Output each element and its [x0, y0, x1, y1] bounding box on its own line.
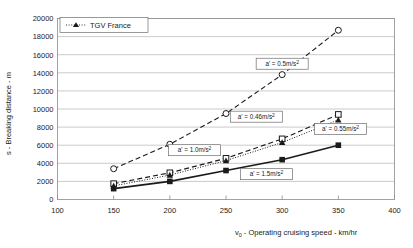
data-point [279, 72, 285, 78]
data-point [223, 168, 229, 174]
annotation-ann-05: a' = 0.5m/s2 [256, 58, 308, 69]
y-axis-title-text: s - Breaking distance - m [4, 72, 13, 155]
y-tick-label: 12000 [33, 87, 54, 96]
y-tick-label: 10000 [33, 105, 54, 114]
x-tick-label: 100 [51, 206, 64, 215]
annotation-label: a' = 0.46m/s2 [238, 112, 275, 120]
legend-item-label: TGV France [90, 21, 131, 30]
y-tick-label: 2000 [37, 177, 54, 186]
annotation-base: a' = 0.46m/s [238, 113, 272, 120]
y-tick-label: 8000 [37, 123, 54, 132]
data-point [111, 186, 117, 192]
x-axis-title: v0 - Operating cruising speed - km/hr [235, 228, 358, 238]
x-tick-label: 200 [164, 206, 177, 215]
breaking-distance-chart: 0200040006000800010000120001400016000180… [0, 0, 413, 248]
data-point [279, 157, 285, 163]
annotation-exponent: 2 [356, 124, 359, 130]
data-point [336, 112, 342, 118]
legend-box: TGV France [60, 18, 148, 33]
annotation-base: a' = 0.55m/s [322, 125, 356, 132]
annotation-exponent: 2 [280, 169, 283, 175]
annotation-ann-15: a' = 1.5m/s2 [240, 169, 292, 180]
annotation-exponent: 2 [209, 145, 212, 151]
y-tick-label: 0 [49, 195, 53, 204]
data-point [167, 179, 173, 185]
data-point [223, 111, 229, 117]
x-tick-label: 350 [332, 206, 345, 215]
annotation-label: a' = 0.5m/s2 [265, 59, 299, 67]
annotation-ann-055: a' = 0.55m/s2 [315, 123, 367, 134]
annotation-base: a' = 0.5m/s [265, 60, 296, 67]
annotation-exponent: 2 [296, 59, 299, 65]
y-tick-label: 18000 [33, 32, 54, 41]
y-tick-label: 6000 [37, 141, 54, 150]
y-tick-label: 4000 [37, 159, 54, 168]
data-point [336, 142, 342, 148]
x-tick-label: 250 [220, 206, 233, 215]
data-point [111, 166, 117, 172]
y-tick-label: 16000 [33, 51, 54, 60]
y-axis-title: s - Breaking distance - m [4, 72, 13, 155]
annotation-label: a' = 1.5m/s2 [250, 169, 284, 177]
y-tick-label: 20000 [33, 14, 54, 23]
annotation-base: a' = 1.0m/s [178, 146, 209, 153]
annotation-base: a' = 1.5m/s [250, 170, 281, 177]
annotation-exponent: 2 [272, 112, 275, 118]
y-tick-label: 14000 [33, 69, 54, 78]
annotation-label: a' = 1.0m/s2 [178, 145, 212, 153]
x-axis-title-text: v0 - Operating cruising speed - km/hr [235, 228, 358, 238]
x-tick-label: 400 [388, 206, 401, 215]
annotation-label: a' = 0.55m/s2 [322, 124, 359, 132]
data-point [335, 27, 341, 33]
annotation-ann-10: a' = 1.0m/s2 [169, 145, 221, 156]
x-tick-label: 300 [276, 206, 289, 215]
x-axis-title-rest: - Operating cruising speed - km/hr [242, 228, 358, 237]
x-tick-label: 150 [107, 206, 120, 215]
chart-container: 0200040006000800010000120001400016000180… [0, 0, 413, 248]
annotation-ann-046: a' = 0.46m/s2 [230, 111, 282, 122]
